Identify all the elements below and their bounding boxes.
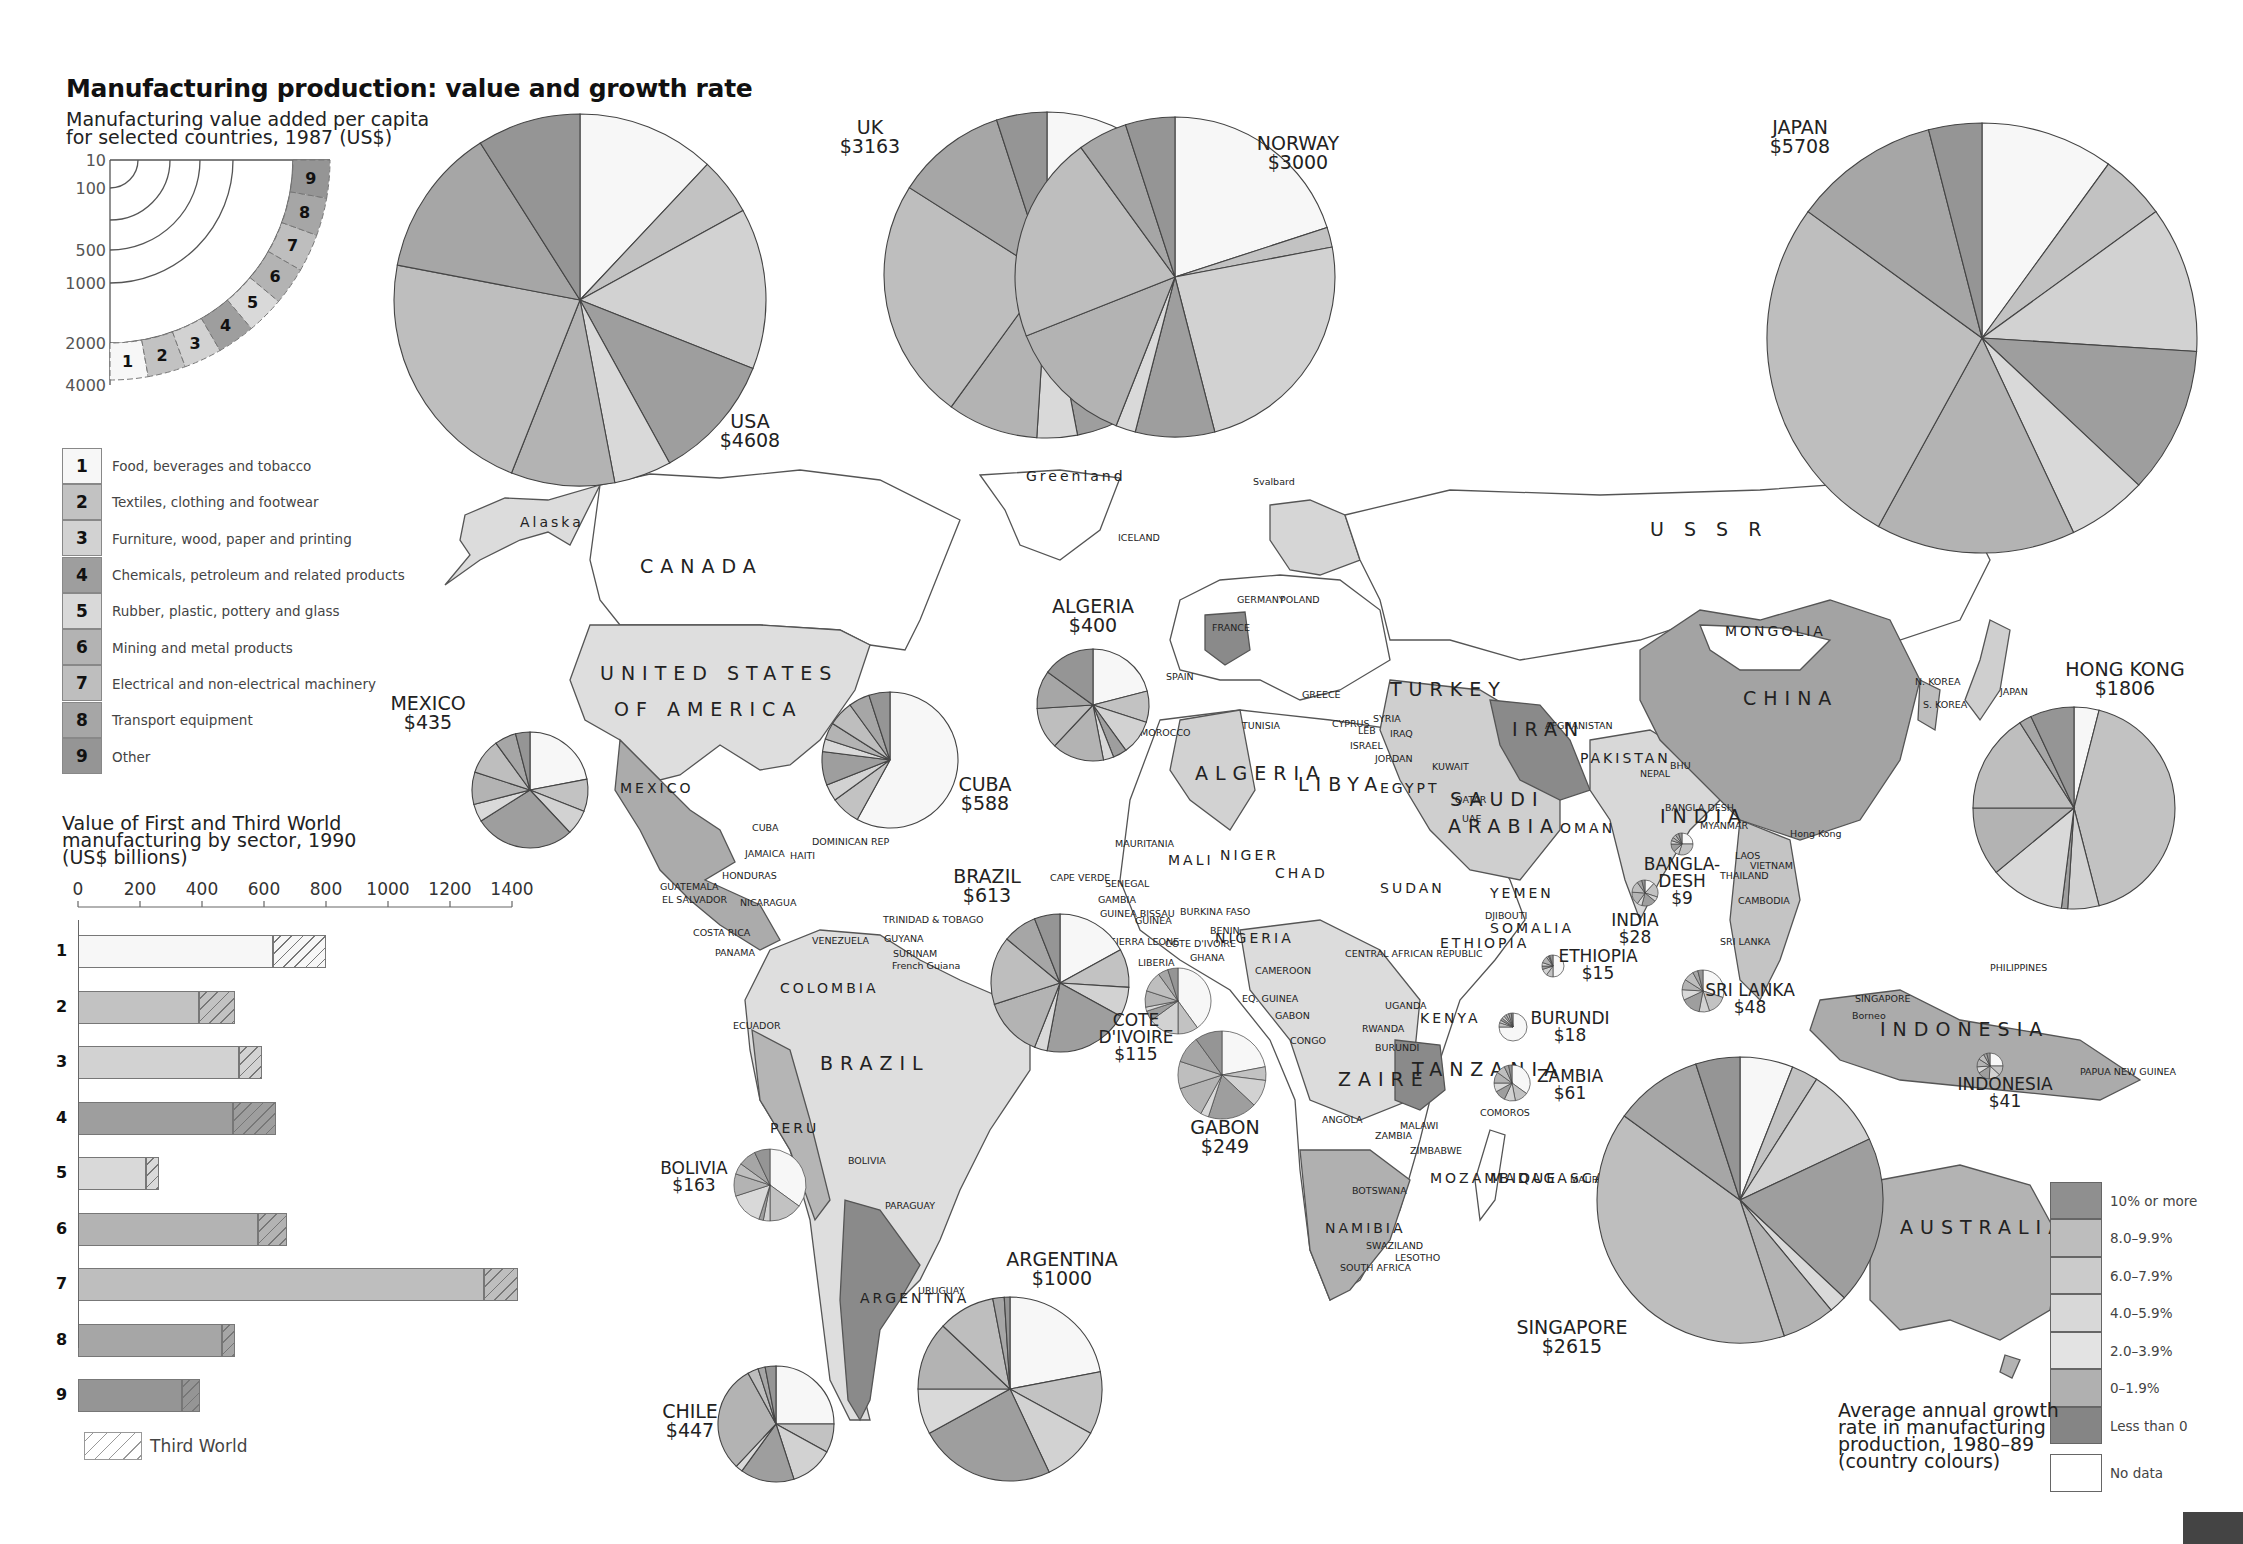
x-axis-tick-label: 200 <box>124 879 156 899</box>
sector-swatch: 3 <box>62 520 102 556</box>
scale-tick-100: 100 <box>56 179 106 198</box>
sector-legend-item-6: 6Mining and metal products <box>62 629 405 665</box>
sector-label: Electrical and non-electrical machinery <box>112 676 376 692</box>
pie-slice-sector-1 <box>776 1366 834 1424</box>
bar-first-world <box>78 1268 484 1301</box>
pie-value: $447 <box>630 1421 750 1440</box>
sector-label: Transport equipment <box>112 712 253 728</box>
pie-label-sri-lanka: SRI LANKA$48 <box>1690 982 1810 1016</box>
scale-tick-1000: 1000 <box>56 274 106 293</box>
bar-row-sector-4: 4 <box>0 1102 560 1138</box>
sector-legend-item-4: 4Chemicals, petroleum and related produc… <box>62 557 405 593</box>
pie-value: $18 <box>1510 1027 1630 1044</box>
growth-legend-item-0-1-9: 0–1.9% <box>2050 1370 2197 1408</box>
bar-first-world <box>78 1213 258 1246</box>
bar-third-world <box>258 1213 287 1246</box>
bar-row-sector-8: 8 <box>0 1324 560 1360</box>
growth-rate-legend: 10% or more8.0–9.9%6.0–7.9%4.0–5.9%2.0–3… <box>2050 1182 2197 1492</box>
scale-band-number: 6 <box>269 267 280 286</box>
sector-swatch: 4 <box>62 557 102 593</box>
bar-first-world <box>78 1379 182 1412</box>
growth-label: 4.0–5.9% <box>2110 1305 2173 1321</box>
growth-legend-item-4-0-5-9: 4.0–5.9% <box>2050 1295 2197 1333</box>
bar-first-world <box>78 935 273 968</box>
sector-swatch: 5 <box>62 593 102 629</box>
pie-value: $4608 <box>690 431 810 450</box>
growth-label: 10% or more <box>2110 1193 2197 1209</box>
page-corner-tab <box>2183 1512 2243 1544</box>
sector-swatch: 6 <box>62 629 102 665</box>
pie-label-indonesia: INDONESIA$41 <box>1945 1076 2065 1110</box>
bar-row-sector-2: 2 <box>0 991 560 1027</box>
bar-chart-x-axis: 0200400600800100012001400 <box>60 885 520 915</box>
pie-label-argentina: ARGENTINA$1000 <box>1002 1250 1122 1288</box>
pie-slice-sector-1 <box>1990 1053 2003 1066</box>
pie-mexico <box>472 732 588 848</box>
x-axis-tick-label: 600 <box>248 879 280 899</box>
pie-value: $9 <box>1622 890 1742 907</box>
pie-subtitle: Manufacturing value added per capita for… <box>66 110 446 146</box>
growth-swatch <box>2050 1219 2102 1257</box>
scale-band-number: 8 <box>299 203 310 222</box>
pie-label-cuba: CUBA$588 <box>925 775 1045 813</box>
pie-hong-kong <box>1973 707 2175 909</box>
scale-band-number: 9 <box>305 169 316 188</box>
growth-label: Less than 0 <box>2110 1418 2188 1434</box>
bar-first-world <box>78 1157 146 1190</box>
x-axis-tick-label: 400 <box>186 879 218 899</box>
sector-swatch: 8 <box>62 702 102 738</box>
x-axis-tick-label: 0 <box>73 879 84 899</box>
bar-third-world <box>182 1379 201 1412</box>
bar-third-world <box>484 1268 518 1301</box>
x-axis-tick-label: 1000 <box>366 879 409 899</box>
pie-label-india: INDIA$28 <box>1575 912 1695 946</box>
pie-label-burundi: BURUNDI$18 <box>1510 1010 1630 1044</box>
scale-tick-10: 10 <box>56 151 106 170</box>
pie-label-ethiopia: ETHIOPIA$15 <box>1538 948 1658 982</box>
pie-value: $5708 <box>1740 137 1860 156</box>
growth-swatch <box>2050 1257 2102 1295</box>
bar-chart-y-axis-line <box>78 920 79 1348</box>
pie-value: $2615 <box>1512 1337 1632 1356</box>
pie-value: $115 <box>1076 1046 1196 1063</box>
pie-algeria <box>1037 649 1149 761</box>
pie-singapore <box>1597 1057 1883 1343</box>
pie-label-bolivia: BOLIVIA$163 <box>634 1160 754 1194</box>
bar-first-world <box>78 1324 222 1357</box>
sector-legend: 1Food, beverages and tobacco2Textiles, c… <box>62 448 405 775</box>
pie-country-name: COTE D'IVOIRE <box>1076 1012 1196 1046</box>
pie-slice-sector-1 <box>1682 833 1693 844</box>
scale-band-number: 2 <box>157 346 168 365</box>
pie-value: $3163 <box>810 137 930 156</box>
third-world-legend: Third World <box>84 1432 247 1460</box>
pie-value: $3000 <box>1238 153 1358 172</box>
scale-tick-2000: 2000 <box>56 334 106 353</box>
pie-japan <box>1767 123 2197 553</box>
pie-value: $249 <box>1165 1137 1285 1156</box>
bar-first-world <box>78 991 199 1024</box>
growth-label: 8.0–9.9% <box>2110 1230 2173 1246</box>
scale-band-number: 4 <box>220 316 231 335</box>
growth-label: 2.0–3.9% <box>2110 1343 2173 1359</box>
sector-legend-item-8: 8Transport equipment <box>62 702 405 738</box>
growth-swatch <box>2050 1332 2102 1370</box>
pie-country-name: BANGLA-DESH <box>1622 856 1742 890</box>
pie-value: $588 <box>925 794 1045 813</box>
pie-label-japan: JAPAN$5708 <box>1740 118 1860 156</box>
bar-third-world <box>199 991 235 1024</box>
bar-first-world <box>78 1046 239 1079</box>
bar-first-world <box>78 1102 233 1135</box>
bar-chart-title: Value of First and Third World manufactu… <box>62 815 402 866</box>
pie-label-norway: NORWAY$3000 <box>1238 134 1358 172</box>
pie-argentina <box>918 1297 1102 1481</box>
bar-row-sector-1: 1 <box>0 935 560 971</box>
bar-third-world <box>222 1324 234 1357</box>
bar-row-sector-6: 6 <box>0 1213 560 1249</box>
scale-band-number: 5 <box>247 293 258 312</box>
scale-band-number: 3 <box>190 334 201 353</box>
growth-label: 6.0–7.9% <box>2110 1268 2173 1284</box>
sector-legend-item-5: 5Rubber, plastic, pottery and glass <box>62 593 405 629</box>
scale-band-number: 1 <box>122 352 133 371</box>
bar-third-world <box>273 935 326 968</box>
sector-label: Other <box>112 749 150 765</box>
